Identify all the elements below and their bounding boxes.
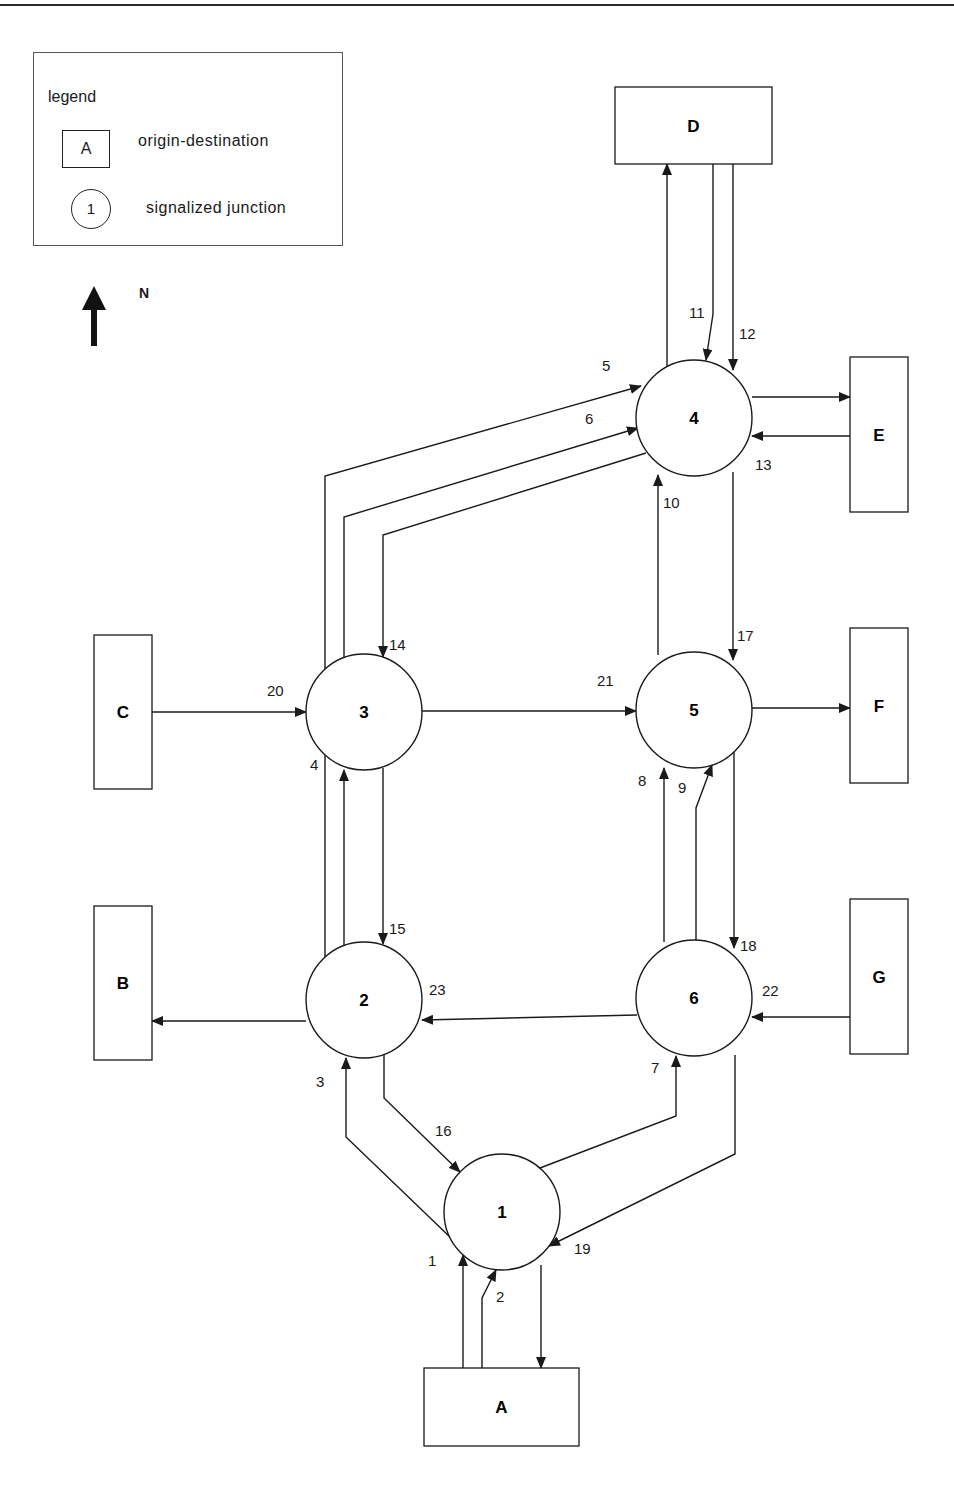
north-arrow-icon [80,286,108,348]
od-zone-A: A [424,1368,579,1446]
link-label-22: 22 [762,982,779,999]
link-2 [482,1270,496,1368]
od-zone-label: D [687,117,699,136]
od-zone-label: G [872,968,885,987]
link-label-5: 5 [602,357,610,374]
junction-label: 4 [689,409,699,428]
link-9 [696,765,712,940]
junction-3: 3 [306,654,422,770]
junction-5: 5 [636,652,752,768]
od-zone-E: E [850,357,908,512]
od-zone-label: C [117,703,129,722]
od-zone-label: F [874,697,884,716]
junction-6: 6 [636,940,752,1056]
legend-od-label: origin-destination [138,132,269,150]
link-label-18: 18 [740,937,757,954]
od-zone-C: C [94,635,152,789]
link-label-3: 3 [316,1073,324,1090]
link-19 [549,1055,735,1246]
link-label-9: 9 [678,779,686,796]
link-label-13: 13 [755,456,772,473]
junction-label: 5 [689,701,698,720]
link-label-23: 23 [429,981,446,998]
link-label-2: 2 [496,1288,504,1305]
junction-label: 6 [689,989,698,1008]
od-zone-G: G [850,899,908,1054]
north-label: N [139,285,149,301]
legend-junction-label: signalized junction [146,199,286,217]
link-label-11: 11 [689,304,705,321]
link-label-8: 8 [638,772,646,789]
junction-1: 1 [444,1154,560,1270]
link-label-15: 15 [389,920,406,937]
link-23 [422,1015,637,1020]
junction-label: 3 [359,703,368,722]
link-6 [344,428,638,657]
junctions-layer: 123456 [306,360,752,1270]
link-label-16: 16 [435,1122,452,1139]
link-16 [384,1055,460,1172]
link-label-1: 1 [428,1252,436,1269]
link-14 [383,453,646,657]
od-zone-label: E [873,426,884,445]
od-zone-B: B [94,906,152,1060]
link-label-17: 17 [737,627,754,644]
link-11 [706,164,713,360]
link-label-14: 14 [389,636,406,653]
od-zone-label: B [117,974,129,993]
junction-4: 4 [636,360,752,476]
legend-od-symbol: A [62,130,110,168]
link-label-7: 7 [651,1059,659,1076]
link-label-20: 20 [267,682,284,699]
junction-label: 2 [359,991,368,1010]
od-zone-label: A [495,1398,507,1417]
od-zone-F: F [850,628,908,783]
link-label-6: 6 [585,410,593,427]
link-label-12: 12 [739,325,756,342]
legend-title: legend [48,88,96,106]
link-label-19: 19 [574,1240,591,1257]
junction-label: 1 [497,1203,506,1222]
od-zone-D: D [615,87,772,164]
junction-2: 2 [306,942,422,1058]
link-label-10: 10 [663,494,680,511]
link-label-4: 4 [310,756,318,773]
legend-junction-symbol: 1 [71,189,111,229]
link-label-21: 21 [597,672,614,689]
